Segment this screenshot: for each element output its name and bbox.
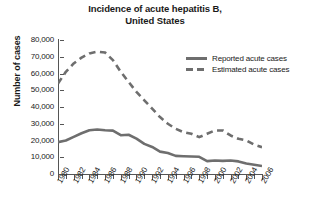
legend-line-dashed-icon — [186, 68, 207, 71]
chart-figure: Incidence of acute hepatitis B, United S… — [0, 0, 310, 216]
legend-label-reported: Reported acute cases — [212, 54, 287, 63]
y-tick-label: 80,000 — [8, 36, 54, 44]
y-tick-label: 30,000 — [8, 120, 54, 128]
x-tick-label: 2006 — [260, 166, 275, 185]
legend-item-estimated: Estimated acute cases — [186, 64, 306, 75]
chart-title-line-2: United States — [40, 15, 270, 27]
chart-legend: Reported acute cases Estimated acute cas… — [186, 53, 306, 75]
chart-title: Incidence of acute hepatitis B, United S… — [40, 3, 270, 27]
y-tick-label: 0 — [8, 170, 54, 178]
legend-item-reported: Reported acute cases — [186, 53, 306, 64]
legend-line-solid-icon — [186, 57, 207, 60]
y-tick-label: 40,000 — [8, 103, 54, 111]
y-axis-tick-labels: 010,00020,00030,00040,00050,00060,00070,… — [6, 0, 54, 216]
legend-label-estimated: Estimated acute cases — [212, 65, 289, 74]
y-tick-label: 10,000 — [8, 153, 54, 161]
y-tick-label: 70,000 — [8, 53, 54, 61]
chart-title-line-1: Incidence of acute hepatitis B, — [40, 3, 270, 15]
y-tick-label: 60,000 — [8, 70, 54, 78]
y-tick-label: 50,000 — [8, 86, 54, 94]
y-tick-label: 20,000 — [8, 137, 54, 145]
